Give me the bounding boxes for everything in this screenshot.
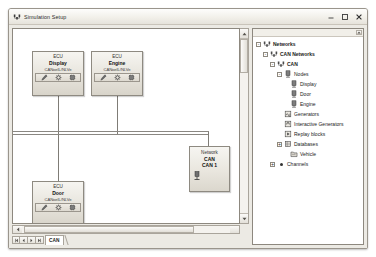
tree-row-channels[interactable]: + Channels xyxy=(255,159,363,169)
tree-items: - Networks - CAN Networks xyxy=(253,37,363,169)
network-icon xyxy=(277,60,285,68)
gear-icon[interactable] xyxy=(114,74,121,81)
tree-row-door[interactable]: Door xyxy=(255,89,363,99)
chip-icon[interactable] xyxy=(69,204,76,211)
maximize-button[interactable] xyxy=(338,11,351,22)
tree-row-interactive-generators[interactable]: Interactive Generators xyxy=(255,119,363,129)
wire-display-drop xyxy=(58,96,59,134)
node-icon xyxy=(290,100,298,108)
node-kind-label: ECU xyxy=(112,54,122,59)
tree-label: Replay blocks xyxy=(294,131,325,137)
network-icon xyxy=(270,50,278,58)
node-icon xyxy=(290,90,298,98)
close-button[interactable] xyxy=(352,11,365,22)
expander-icon[interactable]: - xyxy=(255,41,262,48)
window-title: Simulation Setup xyxy=(24,14,66,20)
window-body: ECU Display CANoeIL/NLVe xyxy=(9,25,367,248)
scroll-right-button[interactable] xyxy=(230,226,239,233)
node-sub-label: CANoeIL/NLVe xyxy=(45,67,72,72)
tree-label: Engine xyxy=(300,101,316,107)
replay-block-icon xyxy=(284,130,292,138)
pencil-icon[interactable] xyxy=(100,74,107,81)
wire-display-to-door xyxy=(58,132,59,184)
canvas-horizontal-scrollbar[interactable] xyxy=(12,225,240,234)
tree-row-can[interactable]: - CAN xyxy=(255,59,363,69)
pencil-icon[interactable] xyxy=(41,204,48,211)
minimize-button[interactable] xyxy=(324,11,337,22)
sheet-tab-can[interactable]: CAN xyxy=(45,235,64,245)
tree-row-generators[interactable]: Generators xyxy=(255,109,363,119)
tree-label: Vehicle xyxy=(300,151,316,157)
expander-icon[interactable]: + xyxy=(269,161,276,168)
node-name-label: Engine xyxy=(109,60,126,66)
chip-icon[interactable] xyxy=(128,74,135,81)
tree-row-networks[interactable]: - Networks xyxy=(255,39,363,49)
horizontal-scroll-track[interactable] xyxy=(22,226,230,233)
node-icon-bar xyxy=(94,73,140,82)
nav-prev-button[interactable] xyxy=(20,236,28,244)
tree-top-bar xyxy=(253,29,363,37)
pencil-icon[interactable] xyxy=(41,74,48,81)
tree-row-can-networks[interactable]: - CAN Networks xyxy=(255,49,363,59)
generator-icon xyxy=(284,110,292,118)
nav-first-button[interactable] xyxy=(12,236,20,244)
vertical-scroll-track[interactable] xyxy=(240,39,248,213)
tree-label: Interactive Generators xyxy=(294,121,343,127)
window-controls xyxy=(324,11,365,22)
network-icon xyxy=(263,40,271,48)
expander-icon[interactable]: - xyxy=(276,71,283,78)
tree-label: Networks xyxy=(273,41,296,47)
tree-row-vehicle[interactable]: Vehicle xyxy=(255,149,363,159)
chip-icon[interactable] xyxy=(69,74,76,81)
scrollbar-corner xyxy=(240,225,249,234)
scroll-down-button[interactable] xyxy=(240,213,248,223)
expander-icon[interactable]: + xyxy=(276,141,283,148)
node-icon xyxy=(284,70,292,78)
tree-label: Nodes xyxy=(294,71,308,77)
node-display[interactable]: ECU Display CANoeIL/NLVe xyxy=(32,51,84,96)
diagram-pane: ECU Display CANoeIL/NLVe xyxy=(12,28,249,245)
vertical-scroll-thumb[interactable] xyxy=(240,39,248,73)
tree-row-databases[interactable]: + Databases xyxy=(255,139,363,149)
tree-row-replay-blocks[interactable]: Replay blocks xyxy=(255,129,363,139)
expander-placeholder xyxy=(276,121,283,128)
network-channel-label: CAN 1 xyxy=(202,162,217,168)
horizontal-scroll-thumb[interactable] xyxy=(24,226,194,233)
node-sub-label: CANoeIL/NLVe xyxy=(104,67,131,72)
wire-engine-drop xyxy=(117,96,118,134)
gear-icon[interactable] xyxy=(55,204,62,211)
node-icon-bar xyxy=(35,203,81,212)
simulation-setup-window: Simulation Setup xyxy=(8,8,368,249)
simulation-canvas[interactable]: ECU Display CANoeIL/NLVe xyxy=(12,28,240,224)
expander-placeholder xyxy=(276,111,283,118)
node-network-can[interactable]: Network CAN CAN 1 xyxy=(189,146,230,192)
expander-icon[interactable]: - xyxy=(269,61,276,68)
tree-label: Databases xyxy=(294,141,318,147)
node-door[interactable]: ECU Door CANoeIL/NLVe xyxy=(32,181,84,224)
canvas-horizontal-scrollbar-row xyxy=(12,225,249,234)
node-engine[interactable]: ECU Engine CANoeIL/NLVe xyxy=(91,51,143,96)
tree-row-display[interactable]: Display xyxy=(255,79,363,89)
database-file-icon xyxy=(290,150,298,158)
tree-scroll-button[interactable] xyxy=(356,30,362,35)
gear-icon[interactable] xyxy=(55,74,62,81)
database-icon xyxy=(284,140,292,148)
node-kind-label: ECU xyxy=(53,54,63,59)
expander-icon[interactable]: - xyxy=(262,51,269,58)
interactive-generator-icon xyxy=(284,120,292,128)
node-name-label: Display xyxy=(49,60,67,66)
tree-pane: - Networks - CAN Networks xyxy=(252,28,364,245)
canvas-row: ECU Display CANoeIL/NLVe xyxy=(12,28,249,224)
tree-row-nodes[interactable]: - Nodes xyxy=(255,69,363,79)
network-tree[interactable]: - Networks - CAN Networks xyxy=(252,28,364,245)
canvas-vertical-scrollbar[interactable] xyxy=(240,28,249,224)
node-name-label: Door xyxy=(52,190,64,196)
bus-connector-icon xyxy=(193,171,201,180)
node-sub-label: CANoeIL/NLVe xyxy=(45,197,72,202)
tree-row-engine[interactable]: Engine xyxy=(255,99,363,109)
scroll-up-button[interactable] xyxy=(240,29,248,39)
scroll-left-button[interactable] xyxy=(13,226,22,233)
bus-line xyxy=(13,131,209,135)
nav-last-button[interactable] xyxy=(36,236,44,244)
nav-next-button[interactable] xyxy=(28,236,36,244)
